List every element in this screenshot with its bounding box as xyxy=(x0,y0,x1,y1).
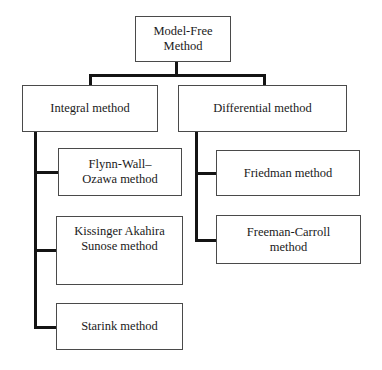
node-friedman-method[interactable]: Friedman method xyxy=(216,150,360,196)
connector-integral-to-fwo xyxy=(34,171,59,174)
connector-differential-to-freeman xyxy=(195,239,218,242)
connector-root-bus xyxy=(89,74,266,77)
node-model-free-method[interactable]: Model-Free Method xyxy=(135,16,231,62)
connector-integral-to-kas xyxy=(34,249,58,252)
node-label-flynn-wall-ozawa-method: Flynn-Wall– Ozawa method xyxy=(82,157,157,187)
node-label-starink-method: Starink method xyxy=(81,319,158,334)
node-label-differential-method: Differential method xyxy=(213,101,312,116)
connector-differential-trunk xyxy=(195,131,198,242)
node-starink-method[interactable]: Starink method xyxy=(56,303,183,350)
node-differential-method[interactable]: Differential method xyxy=(178,85,347,132)
node-label-friedman-method: Friedman method xyxy=(244,166,333,181)
node-label-integral-method: Integral method xyxy=(50,101,130,116)
connector-integral-to-starink xyxy=(34,326,58,329)
connector-integral-trunk xyxy=(34,131,37,329)
model-free-method-diagram: Model-Free Method Integral method Differ… xyxy=(0,0,382,370)
node-integral-method[interactable]: Integral method xyxy=(22,85,158,132)
node-freeman-carroll-method[interactable]: Freeman-Carroll method xyxy=(216,215,361,264)
node-label-kissinger-akahira-sunose-method: Kissinger Akahira Sunose method xyxy=(74,224,165,254)
node-label-freeman-carroll-method: Freeman-Carroll method xyxy=(247,225,330,255)
node-flynn-wall-ozawa-method[interactable]: Flynn-Wall– Ozawa method xyxy=(58,148,182,196)
node-kissinger-akahira-sunose-method[interactable]: Kissinger Akahira Sunose method xyxy=(56,216,183,285)
node-label-model-free-method: Model-Free Method xyxy=(153,24,212,54)
connector-differential-to-friedman xyxy=(195,172,218,175)
